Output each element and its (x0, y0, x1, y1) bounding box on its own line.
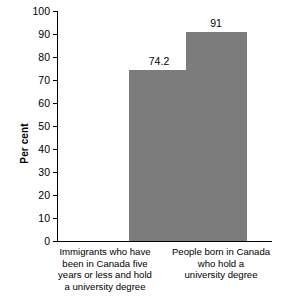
x-axis-category-label: Immigrants who have been in Canada five … (41, 246, 169, 292)
x-axis-line (57, 241, 272, 242)
y-axis-tick-label: 0 (44, 236, 50, 247)
y-axis-tick-mark (53, 80, 58, 81)
y-axis-tick-label: 40 (38, 144, 50, 155)
y-axis-tick-label: 80 (38, 52, 50, 63)
y-axis-tick-label: 100 (32, 6, 50, 17)
y-axis-tick-mark (53, 11, 58, 12)
bar (129, 70, 190, 241)
y-axis-tick-mark (53, 172, 58, 173)
y-axis-tick-mark (53, 149, 58, 150)
y-axis-tick-label: 10 (38, 213, 50, 224)
bar-value-label: 91 (210, 18, 222, 29)
y-axis-tick-mark (53, 103, 58, 104)
y-axis-tick-mark (53, 195, 58, 196)
bar (186, 32, 247, 241)
y-axis-tick-label: 90 (38, 29, 50, 40)
bar-value-label: 74.2 (149, 56, 169, 67)
y-axis-tick-mark (53, 126, 58, 127)
y-axis-tick-label: 70 (38, 75, 50, 86)
plot-area: 0102030405060708090100 74.291 (57, 11, 272, 241)
y-axis-tick-label: 50 (38, 121, 50, 132)
y-axis-title: Per cent (19, 104, 30, 184)
y-axis-tick-mark (53, 57, 58, 58)
y-axis-tick-label: 30 (38, 167, 50, 178)
x-axis-category-label: People born in Canada who hold a univers… (157, 246, 285, 281)
bar-chart: Per cent 0102030405060708090100 74.291 I… (0, 0, 286, 305)
y-axis-tick-mark (53, 218, 58, 219)
y-axis-tick-mark (53, 241, 58, 242)
y-axis-tick-mark (53, 34, 58, 35)
y-axis-tick-label: 20 (38, 190, 50, 201)
y-axis-tick-label: 60 (38, 98, 50, 109)
